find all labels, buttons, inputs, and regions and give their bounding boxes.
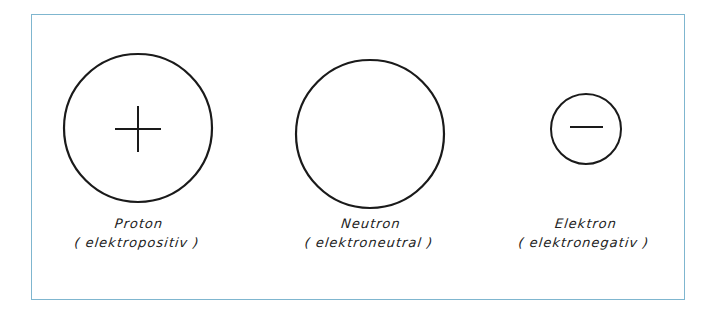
neutron-circle [296,60,444,208]
particle-diagram [0,0,716,324]
proton-name: Proton [68,214,210,233]
electron-symbol [551,94,621,164]
electron-charge: ( elektronegativ ) [508,233,660,252]
neutron-label: Neutron ( elektroneutral ) [293,214,447,252]
electron-name: Elektron [510,214,662,233]
proton-charge: ( elektropositiv ) [66,233,208,252]
electron-circle [551,94,621,164]
neutron-name: Neutron [295,214,447,233]
neutron-symbol [296,60,444,208]
electron-label: Elektron ( elektronegativ ) [508,214,662,252]
proton-symbol [64,54,212,202]
neutron-charge: ( elektroneutral ) [293,233,445,252]
proton-label: Proton ( elektropositiv ) [66,214,210,252]
